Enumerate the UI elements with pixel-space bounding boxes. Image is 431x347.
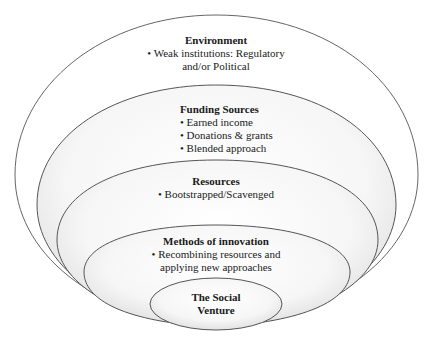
social-venture-title-line-2: Venture: [191, 304, 240, 317]
methods-title: Methods of innovation: [152, 235, 281, 248]
environment-label: Environment • Weak institutions: Regulat…: [147, 34, 285, 73]
environment-title: Environment: [147, 34, 285, 47]
social-venture-title-line-1: The Social: [191, 291, 240, 304]
resources-label: Resources • Bootstrapped/Scavenged: [158, 175, 274, 201]
environment-item-1: • Weak institutions: Regulatory: [147, 47, 285, 60]
funding-sources-label: Funding Sources • Earned income • Donati…: [180, 103, 273, 155]
social-venture-label: The Social Venture: [191, 291, 240, 317]
methods-item-2: applying new approaches: [152, 261, 281, 274]
methods-item-1: • Recombining resources and: [152, 248, 281, 261]
methods-label: Methods of innovation • Recombining reso…: [152, 235, 281, 274]
resources-title: Resources: [158, 175, 274, 188]
environment-item-2: and/or Political: [147, 60, 285, 73]
resources-item-1: • Bootstrapped/Scavenged: [158, 188, 274, 201]
funding-item-1: • Earned income: [180, 116, 273, 129]
funding-item-3: • Blended approach: [180, 142, 273, 155]
funding-item-2: • Donations & grants: [180, 129, 273, 142]
funding-sources-title: Funding Sources: [166, 103, 273, 116]
